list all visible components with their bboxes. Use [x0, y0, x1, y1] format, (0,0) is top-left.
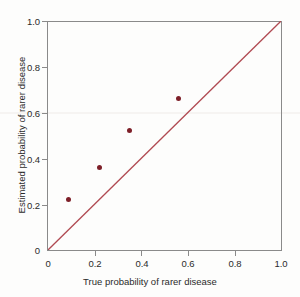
data-point [97, 165, 102, 170]
y-axis-label: Estimated probability of rarer disease [15, 55, 29, 215]
y-axis-label-wrapper: Estimated probability of rarer disease [15, 55, 29, 215]
x-tick-0.2 [95, 251, 96, 256]
y-tick-1.0 [42, 21, 47, 22]
y-tick-0.4 [42, 159, 47, 160]
x-ticklabel-0.6: 0.6 [173, 258, 203, 269]
x-tick-0.6 [188, 251, 189, 256]
x-ticklabel-0: 0 [33, 258, 63, 269]
plot-frame-right [281, 21, 282, 251]
x-tick-0.4 [141, 251, 142, 256]
chart-figure: 1.0 0.8 0.6 0.4 0.2 0 0 0.2 0.4 0.6 0.8 … [0, 0, 300, 297]
y-ticklabel-1.0: 1.0 [14, 16, 40, 27]
x-ticklabel-1.0: 1.0 [266, 258, 296, 269]
x-ticklabel-0.2: 0.2 [80, 258, 110, 269]
x-axis-line [47, 250, 282, 251]
x-ticklabel-0.4: 0.4 [127, 258, 157, 269]
y-tick-0.2 [42, 205, 47, 206]
x-tick-0.8 [235, 251, 236, 256]
x-axis-label: True probability of rarer disease [0, 276, 300, 287]
plot-area [48, 21, 281, 250]
y-tick-0.8 [42, 67, 47, 68]
x-ticklabel-0.8: 0.8 [220, 258, 250, 269]
identity-reference-line [48, 21, 281, 250]
y-tick-0.6 [42, 113, 47, 114]
y-ticklabel-0: 0 [14, 245, 40, 256]
